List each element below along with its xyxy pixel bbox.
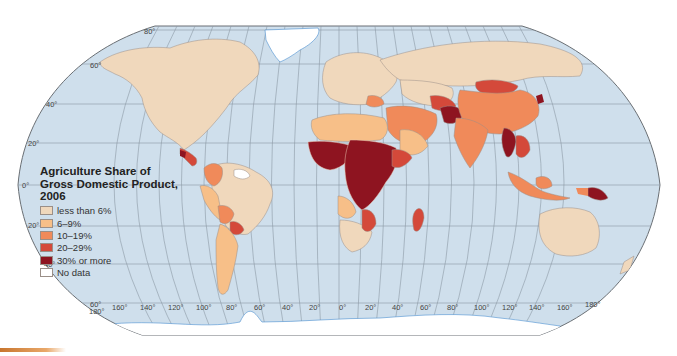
legend-label: 6–9% (57, 218, 81, 229)
legend-swatch (40, 219, 53, 228)
legend-swatch (40, 231, 53, 240)
lon-label: 20° (365, 303, 376, 312)
lon-label: 140° (140, 303, 156, 312)
lat-label-0: 0° (22, 181, 29, 190)
lon-label: 180° (585, 300, 601, 309)
legend-label: less than 6% (57, 205, 111, 216)
lon-label: 140° (529, 303, 545, 312)
lon-label: 40° (392, 303, 403, 312)
region-australia (539, 208, 599, 256)
legend-item-no-data: No data (40, 266, 190, 278)
lon-label: 60° (254, 303, 265, 312)
legend-swatch (40, 256, 53, 265)
lon-label: 120° (168, 303, 184, 312)
world-map: 80° 60° 40° 20° 0° 20° 40° 60° 180° 160°… (0, 0, 677, 356)
lon-label: 100° (474, 303, 490, 312)
lat-label-40n: 40° (46, 100, 57, 109)
lon-label: 60° (420, 303, 431, 312)
lon-label: 80° (226, 303, 237, 312)
lon-label: 180° (89, 307, 105, 316)
legend-title-line: 2006 (40, 190, 190, 203)
lon-label: 160° (557, 303, 573, 312)
legend-swatch (40, 206, 53, 215)
legend-item-6-9: 6–9% (40, 217, 190, 229)
legend-item-20-29: 20–29% (40, 242, 190, 254)
legend-label: 10–19% (57, 230, 92, 241)
legend-label: No data (57, 267, 90, 278)
legend-label: 20–29% (57, 242, 92, 253)
lat-label-20s: 20° (28, 221, 39, 230)
lon-label: 20° (309, 303, 320, 312)
lon-label: 100° (196, 303, 212, 312)
lon-label: 0° (339, 303, 346, 312)
lat-label-80n: 80° (144, 27, 155, 36)
legend-item-30-or-more: 30% or more (40, 254, 190, 266)
lat-label-60n: 60° (90, 61, 101, 70)
legend-title: Agriculture Share of Gross Domestic Prod… (40, 165, 190, 203)
legend-item-less-than-6: less than 6% (40, 205, 190, 217)
lon-label: 120° (502, 303, 518, 312)
region-north-africa (311, 114, 387, 142)
legend-swatch (40, 243, 53, 252)
legend-item-10-19: 10–19% (40, 229, 190, 241)
lat-label-20n: 20° (28, 139, 39, 148)
legend-label: 30% or more (57, 255, 111, 266)
legend-title-line: Gross Domestic Product, (40, 178, 190, 191)
legend-title-line: Agriculture Share of (40, 165, 190, 178)
lon-label: 40° (282, 303, 293, 312)
lon-label: 80° (447, 303, 458, 312)
legend-swatch (40, 268, 53, 277)
accent-bar (0, 348, 66, 352)
map-legend: Agriculture Share of Gross Domestic Prod… (40, 165, 190, 279)
lon-label: 160° (112, 303, 128, 312)
